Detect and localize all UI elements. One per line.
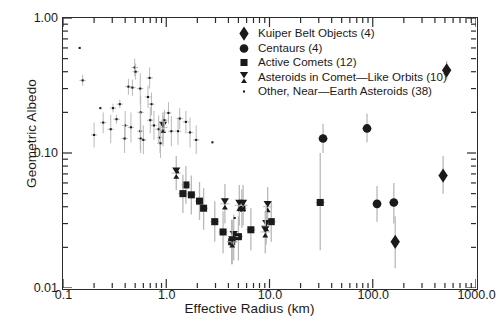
x-tick-label: 1.0 [127, 288, 207, 302]
bowtie-marker-icon [236, 70, 252, 85]
legend-item: Other, Near—Earth Asteroids (38) [236, 84, 447, 99]
x-tick-label: 0.1 [24, 288, 104, 302]
legend-label: Centaurs (4) [258, 41, 322, 56]
legend-label: Other, Near—Earth Asteroids (38) [258, 84, 432, 99]
dot-marker-icon [236, 84, 252, 99]
x-tick-label: 100.0 [333, 288, 413, 302]
series-4 [79, 47, 236, 219]
circle-marker-icon [236, 41, 252, 56]
legend-item: Asteroids in Comet—Like Orbits (10) [236, 70, 447, 85]
legend-item: Active Comets (12) [236, 55, 447, 70]
albedo-scatter-chart: 1.000.100.01 0.11.010.0100.01000.0 Geome… [0, 0, 499, 325]
legend-item: Kuiper Belt Objects (4) [236, 26, 447, 41]
y-tick-label: 1.00 [6, 11, 58, 25]
x-tick-label: 1000.0 [437, 288, 499, 302]
chart-legend: Kuiper Belt Objects (4)Centaurs (4)Activ… [236, 26, 447, 99]
y-axis-title: Geometric Albedo [24, 49, 39, 219]
series-2 [178, 153, 325, 264]
legend-label: Active Comets (12) [258, 55, 357, 70]
legend-item: Centaurs (4) [236, 41, 447, 56]
x-axis-title: Effective Radius (km) [0, 301, 499, 316]
series-1 [318, 114, 398, 224]
square-marker-icon [236, 55, 252, 70]
diamond-marker-icon [236, 26, 252, 41]
legend-label: Kuiper Belt Objects (4) [258, 26, 375, 41]
legend-label: Asteroids in Comet—Like Orbits (10) [258, 70, 447, 85]
x-tick-label: 10.0 [230, 288, 310, 302]
